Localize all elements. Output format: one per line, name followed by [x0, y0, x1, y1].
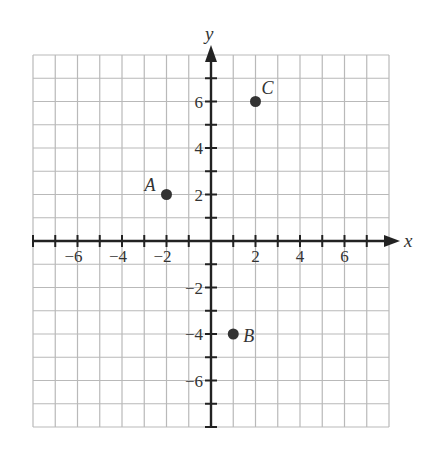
y-tick-label: −4	[185, 325, 204, 344]
x-axis-label: x	[403, 230, 413, 251]
point-marker-icon	[250, 96, 261, 107]
axes: xy	[33, 23, 413, 427]
x-tick-label: 2	[251, 247, 260, 266]
y-axis-arrow-icon	[205, 45, 217, 62]
x-axis-arrow-icon	[384, 235, 400, 247]
y-tick-label: −2	[185, 279, 203, 298]
x-tick-label: −4	[109, 247, 128, 266]
x-tick-label: −2	[153, 247, 171, 266]
point-label: C	[262, 78, 275, 98]
point-b: B	[228, 326, 255, 346]
coordinate-plane: xy −6−4−2246642−2−4−6 ABC	[0, 0, 432, 457]
plotted-points: ABC	[144, 78, 275, 347]
point-label: B	[243, 326, 254, 346]
y-tick-label: −6	[185, 372, 203, 391]
x-tick-label: 6	[340, 247, 349, 266]
y-axis-label: y	[203, 23, 214, 44]
point-marker-icon	[161, 189, 172, 200]
y-tick-label: 4	[195, 139, 204, 158]
x-tick-label: 4	[296, 247, 305, 266]
y-tick-label: 6	[195, 93, 204, 112]
point-c: C	[250, 78, 275, 108]
y-tick-label: 2	[195, 186, 204, 205]
x-tick-label: −6	[64, 247, 82, 266]
point-a: A	[144, 175, 173, 201]
point-label: A	[144, 175, 157, 195]
point-marker-icon	[228, 329, 239, 340]
